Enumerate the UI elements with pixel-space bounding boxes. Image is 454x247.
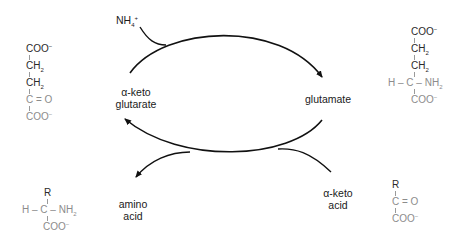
ammonium-input-arrow — [140, 27, 166, 45]
alpha-ketoglutarate-structure: COO− CH2 CH2 C = O COO− — [26, 44, 66, 134]
glutamate-label: glutamate — [305, 93, 351, 105]
lower-arc-arrow — [125, 119, 322, 152]
amino-acid-structure: R H – C – NH2 COO− — [22, 188, 92, 247]
amino-acid-label: amino acid — [113, 198, 153, 222]
alpha-ketoglutarate-label: α-keto glutarate — [105, 86, 167, 110]
glutamate-structure: COO− CH2 CH2 H – C – NH2 COO− — [386, 27, 454, 127]
keto-acid-input-arrow — [278, 149, 331, 172]
upper-arc-arrow — [130, 36, 322, 77]
amino-acid-output-arrow — [136, 152, 190, 177]
alpha-keto-acid-structure: R C = O COO− — [392, 180, 442, 240]
alpha-keto-acid-label: α-keto acid — [318, 187, 358, 211]
ammonium-label: NH4+ — [116, 14, 138, 26]
